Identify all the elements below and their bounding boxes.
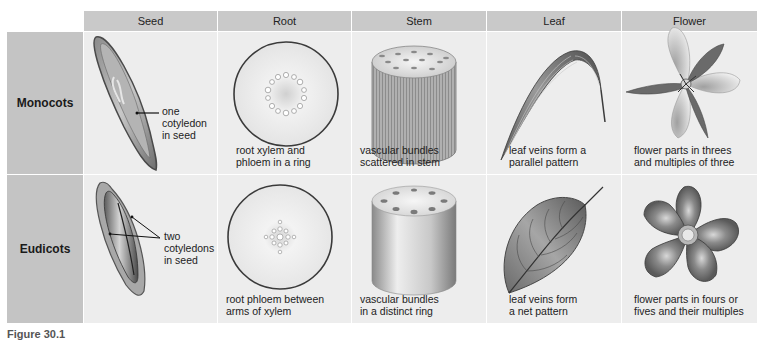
eudicot-flower-cell: flower parts in fours or fives and their… <box>622 175 757 323</box>
monocot-stem-cell: vascular bundles scattered in stem <box>352 32 486 174</box>
monocot-eudicot-comparison-table: Seed Root Stem Leaf Flower Monocots one … <box>7 11 757 323</box>
monocot-stem-caption: vascular bundles scattered in stem <box>352 144 486 168</box>
figure-caption: Figure 30.1 <box>7 328 65 340</box>
monocot-flower-three-parts <box>622 20 757 162</box>
eudicot-leaf-cell: leaf veins form a net pattern <box>487 175 621 323</box>
eudicot-leaf-caption: leaf veins form a net pattern <box>487 293 621 317</box>
eudicot-root-cell: root phloem between arms of xylem <box>218 175 351 323</box>
eudicot-seed-label: two cotyledons in seed <box>164 230 214 266</box>
monocot-leaf-cell: leaf veins form a parallel pattern <box>487 32 621 174</box>
monocot-root-caption: root xylem and phloem in a ring <box>218 144 351 168</box>
eudicot-root-caption: root phloem between arms of xylem <box>218 293 351 317</box>
column-header-root: Root <box>218 11 351 31</box>
monocot-root-cell: root xylem and phloem in a ring <box>218 32 351 174</box>
eudicot-stem-caption: vascular bundles in a distinct ring <box>352 293 486 317</box>
column-header-leaf: Leaf <box>487 11 621 31</box>
table-corner <box>7 11 83 31</box>
column-header-stem: Stem <box>352 11 486 31</box>
monocot-flower-caption: flower parts in threes and multiples of … <box>622 144 757 168</box>
monocot-seed-label: one cotyledon in seed <box>162 105 207 141</box>
monocot-leaf-caption: leaf veins form a parallel pattern <box>487 144 621 168</box>
monocot-flower-cell: flower parts in threes and multiples of … <box>622 32 757 174</box>
column-header-seed: Seed <box>84 11 217 31</box>
monocot-seed-cell: one cotyledon in seed <box>84 32 217 174</box>
row-header-eudicots: Eudicots <box>7 175 83 323</box>
eudicot-seed-cell: two cotyledons in seed <box>84 175 217 323</box>
monocot-seed-illustration <box>84 32 217 174</box>
eudicot-stem-cell: vascular bundles in a distinct ring <box>352 175 486 323</box>
row-header-monocots: Monocots <box>7 32 83 174</box>
eudicot-flower-caption: flower parts in fours or fives and their… <box>622 293 757 317</box>
